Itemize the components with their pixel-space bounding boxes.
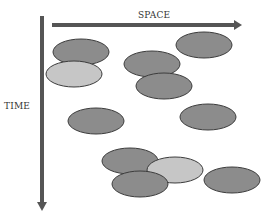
space-arrowhead-icon (234, 20, 242, 30)
event-ellipse-11 (204, 167, 260, 193)
space-axis-arrow (52, 20, 242, 30)
event-ellipse-4 (136, 73, 192, 99)
time-axis-label: TIME (4, 101, 30, 111)
time-axis-line (40, 16, 44, 204)
time-axis-arrow (37, 16, 47, 211)
event-ellipse-7 (180, 104, 236, 130)
space-axis-label: SPACE (138, 10, 170, 20)
event-ellipse-2 (46, 61, 102, 87)
event-ellipse-10 (112, 171, 168, 197)
space-axis-line (52, 23, 236, 27)
time-arrowhead-icon (37, 202, 47, 211)
event-ellipses (46, 32, 260, 197)
event-ellipse-6 (68, 108, 124, 134)
event-ellipse-5 (176, 32, 232, 58)
space-time-diagram: SPACE TIME (0, 0, 274, 216)
